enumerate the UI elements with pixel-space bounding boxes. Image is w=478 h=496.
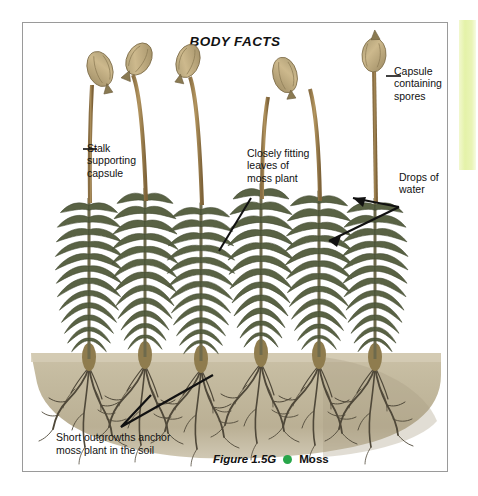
figure-frame: BODY FACTS [22,22,448,472]
annotation-capsule-containing-spores: Capsule containing spores [394,65,442,102]
bullet-dot-icon [283,455,292,464]
figure-number: Figure 1.5G [213,453,276,465]
figure-subject: Moss [299,453,328,465]
figure-inner: BODY FACTS [23,23,447,471]
annotation-stalk-supporting-capsule: Stalk supporting capsule [87,142,136,179]
highlight-strip [459,20,476,170]
annotation-drops-of-water: Drops of water [399,171,439,196]
screenshot-root: BODY FACTS [0,0,478,496]
annotation-closely-fitting-leaves: Closely fitting leaves of moss plant [247,147,309,184]
figure-caption: Figure 1.5G Moss [213,453,329,465]
moss-illustration [23,23,448,472]
annotation-short-outgrowths-anchor: Short outgrowths anchor moss plant in th… [56,431,170,457]
